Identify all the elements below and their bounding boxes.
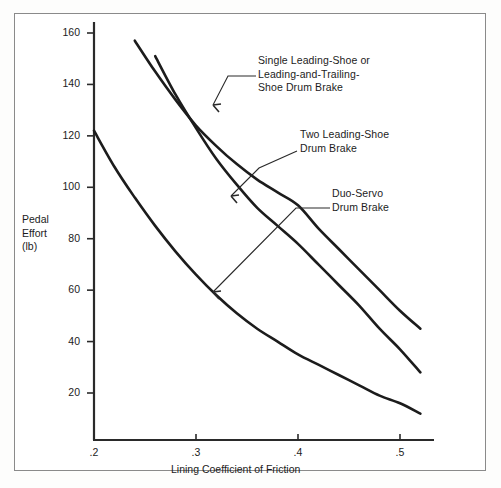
x-tick-label-.5: .5 — [390, 446, 410, 458]
x-axis-label: Lining Coefficient of Friction — [171, 463, 300, 477]
chart-curves — [94, 41, 420, 414]
annotation-duo-line-2: Drum Brake — [332, 201, 389, 215]
annotation-duo-line-1: Duo-Servo — [332, 187, 389, 201]
y-tick-label-120: 120 — [46, 129, 80, 141]
arrowhead-single — [213, 104, 221, 112]
y-tick-label-80: 80 — [46, 232, 80, 244]
y-axis-label: Pedal Effort (lb) — [22, 213, 49, 254]
curve-2 — [94, 131, 420, 414]
annotation-duo-servo: Duo-Servo Drum Brake — [332, 187, 389, 214]
annotation-single-line-3: Shoe Drum Brake — [258, 81, 370, 95]
annotation-single-line-2: Leading-and-Trailing- — [258, 68, 370, 82]
y-tick-label-40: 40 — [46, 335, 80, 347]
chart-page: Pedal Effort (lb) Lining Coefficient of … — [0, 0, 501, 488]
y-tick-label-140: 140 — [46, 77, 80, 89]
annotation-two-line-1: Two Leading-Shoe — [300, 128, 389, 142]
y-tick-label-60: 60 — [46, 283, 80, 295]
y-axis-label-line-2: Effort — [22, 227, 49, 241]
chart-plot-area — [0, 0, 501, 488]
annotation-single-leading-shoe: Single Leading-Shoe or Leading-and-Trail… — [258, 54, 370, 95]
y-tick-label-20: 20 — [46, 386, 80, 398]
y-axis-label-line-1: Pedal — [22, 213, 49, 227]
curve-1 — [155, 56, 420, 372]
leader-line-single — [213, 76, 256, 105]
annotation-two-leading-shoe: Two Leading-Shoe Drum Brake — [300, 128, 389, 155]
y-axis-label-line-3: (lb) — [22, 240, 49, 254]
y-tick-label-100: 100 — [46, 180, 80, 192]
x-tick-label-.2: .2 — [84, 446, 104, 458]
arrowhead-two — [231, 195, 239, 203]
x-tick-label-.3: .3 — [186, 446, 206, 458]
x-tick-label-.4: .4 — [288, 446, 308, 458]
annotation-two-line-2: Drum Brake — [300, 142, 389, 156]
y-tick-label-160: 160 — [46, 26, 80, 38]
annotation-single-line-1: Single Leading-Shoe or — [258, 54, 370, 68]
